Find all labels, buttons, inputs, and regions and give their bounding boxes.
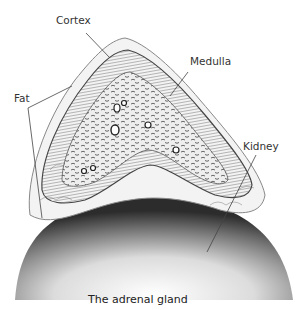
label-medulla: Medulla (190, 55, 231, 67)
adrenal-gland-illustration: Cortex Medulla Fat Kidney The adrenal gl… (0, 0, 302, 310)
figure-caption: The adrenal gland (88, 293, 188, 306)
label-cortex: Cortex (56, 14, 91, 26)
anatomy-drawing (0, 0, 302, 310)
label-kidney: Kidney (243, 140, 279, 152)
label-fat: Fat (14, 92, 30, 104)
